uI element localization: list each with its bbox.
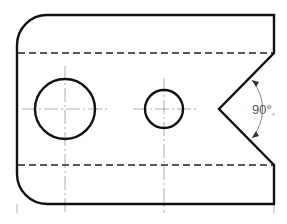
arrowhead-top-icon: [252, 80, 259, 87]
centerlines: [17, 66, 274, 213]
angle-label-tick: +: [271, 110, 276, 119]
angle-label: 90°: [252, 102, 272, 117]
technical-drawing: 90° +: [0, 0, 287, 224]
angle-dimension: 90° +: [252, 80, 276, 138]
arrowhead-bottom-icon: [252, 131, 259, 138]
